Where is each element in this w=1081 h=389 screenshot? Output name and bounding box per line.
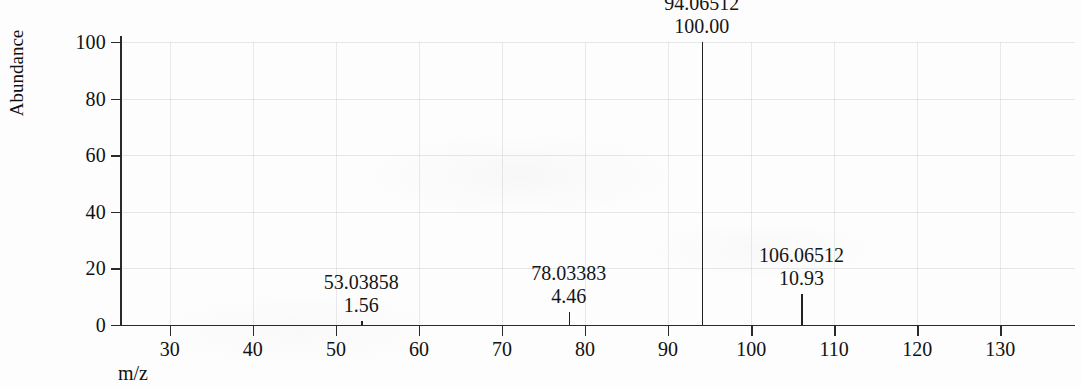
x-axis-tick-label: 70 — [467, 338, 537, 360]
y-axis-tick — [111, 42, 121, 43]
peak-line — [801, 294, 803, 325]
x-axis-tick-label: 30 — [135, 338, 205, 360]
gridline-vertical — [253, 42, 254, 325]
gridline-vertical — [1000, 42, 1001, 325]
y-axis-tick-label: 100 — [60, 32, 106, 52]
x-axis-tick — [1000, 326, 1001, 336]
x-axis-line — [120, 325, 1075, 327]
x-axis-tick — [834, 326, 835, 336]
x-axis-tick — [502, 326, 503, 336]
peak-line — [569, 312, 571, 325]
x-axis-tick — [751, 326, 752, 336]
x-axis-tick-label: 80 — [550, 338, 620, 360]
x-axis-title: m/z — [118, 362, 148, 384]
y-axis-tick — [111, 268, 121, 269]
gridline-horizontal — [120, 212, 1075, 213]
y-axis-line — [120, 36, 122, 326]
x-axis-tick-label: 60 — [384, 338, 454, 360]
x-axis-tick — [253, 326, 254, 336]
x-axis-tick-label: 120 — [882, 338, 952, 360]
peak-label: 78.033834.46 — [469, 262, 669, 308]
y-axis-tick-label: 20 — [60, 258, 106, 278]
gridline-horizontal — [120, 155, 1075, 156]
y-axis-title: Abundance — [6, 13, 28, 133]
y-axis-tick-label: 40 — [60, 202, 106, 222]
x-axis-tick-label: 50 — [301, 338, 371, 360]
x-axis-tick-label: 40 — [218, 338, 288, 360]
mass-spectrum-figure: 020406080100 30405060708090100110120130 … — [0, 0, 1081, 389]
y-axis-tick — [111, 155, 121, 156]
x-axis-tick-label: 100 — [716, 338, 786, 360]
y-axis-tick-label: 60 — [60, 145, 106, 165]
x-axis-tick-label: 130 — [965, 338, 1035, 360]
peak-mz-value: 78.03383 — [469, 262, 669, 285]
peak-intensity-value: 4.46 — [469, 285, 669, 308]
peak-label: 94.06512100.00 — [602, 0, 802, 38]
y-axis-tick-label: 0 — [60, 315, 106, 335]
gridline-vertical — [170, 42, 171, 325]
x-axis-tick — [585, 326, 586, 336]
peak-intensity-value: 100.00 — [602, 15, 802, 38]
gridline-vertical — [917, 42, 918, 325]
y-axis-tick — [111, 325, 121, 326]
gridline-horizontal — [120, 42, 1075, 43]
x-axis-tick-label: 110 — [799, 338, 869, 360]
peak-mz-value: 94.06512 — [602, 0, 802, 15]
x-axis-tick — [668, 326, 669, 336]
x-axis-tick — [170, 326, 171, 336]
peak-intensity-value: 1.56 — [261, 294, 461, 317]
gridline-horizontal — [120, 99, 1075, 100]
y-axis-tick — [111, 99, 121, 100]
peak-intensity-value: 10.93 — [701, 267, 901, 290]
peak-label: 53.038581.56 — [261, 271, 461, 317]
peak-label: 106.0651210.93 — [701, 244, 901, 290]
x-axis-tick-label: 90 — [633, 338, 703, 360]
y-axis-tick-label: 80 — [60, 89, 106, 109]
x-axis-tick — [336, 326, 337, 336]
y-axis-tick — [111, 212, 121, 213]
x-axis-tick — [917, 326, 918, 336]
peak-mz-value: 53.03858 — [261, 271, 461, 294]
x-axis-tick — [419, 326, 420, 336]
peak-mz-value: 106.06512 — [701, 244, 901, 267]
